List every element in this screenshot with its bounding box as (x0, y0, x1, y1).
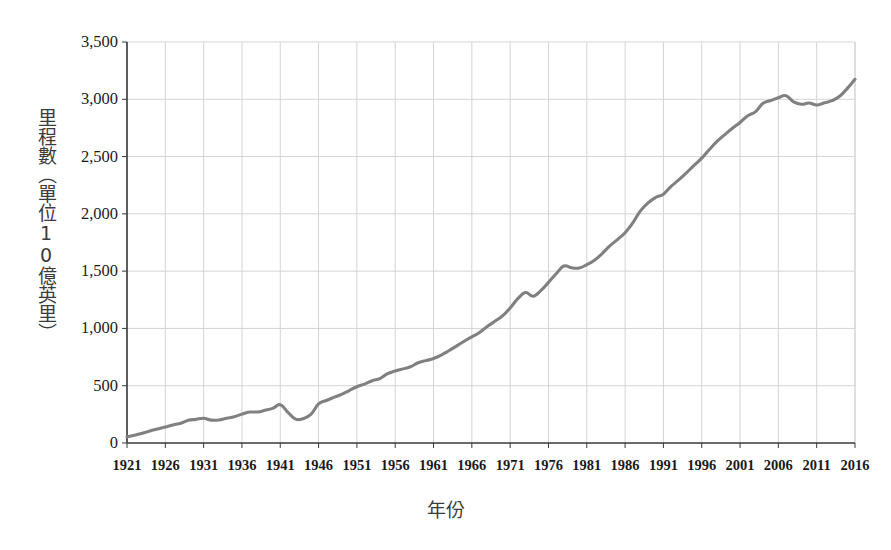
chart-figure: 里程數（單位10億英里） 05001,0001,5002,0002,5003,0… (0, 0, 891, 550)
horizontal-gridlines (127, 42, 855, 386)
axis-tick-marks (122, 42, 855, 448)
plot-area (0, 0, 891, 550)
axis-lines (127, 42, 855, 443)
vertical-gridlines (127, 42, 855, 443)
x-axis-title: 年份 (0, 495, 891, 522)
data-series-line (127, 79, 855, 436)
